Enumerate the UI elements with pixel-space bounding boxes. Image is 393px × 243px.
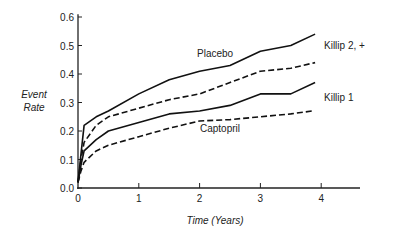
- axes: 0.00.10.20.30.40.50.601234: [60, 12, 360, 204]
- y-tick-label: 0.1: [60, 155, 74, 166]
- y-tick-label: 0.4: [60, 69, 74, 80]
- y-tick-label: 0.6: [60, 12, 74, 23]
- x-tick-label: 3: [258, 193, 264, 204]
- y-tick-label: 0.5: [60, 41, 74, 52]
- y-tick-label: 0.2: [60, 126, 74, 137]
- captopril-label: Captopril: [200, 123, 240, 134]
- series-line-1: [78, 63, 315, 183]
- x-tick-label: 1: [136, 193, 142, 204]
- killip-2-label: Killip 2, +: [324, 40, 365, 51]
- y-axis-title: Event: [21, 89, 48, 100]
- series-line-3: [78, 111, 312, 182]
- series-line-2: [78, 83, 315, 183]
- placebo-label: Placebo: [197, 48, 234, 59]
- chart: 0.00.10.20.30.40.50.601234 Event Rate Ti…: [0, 0, 393, 243]
- y-axis-title-line2: Rate: [23, 102, 45, 113]
- x-tick-label: 0: [75, 193, 81, 204]
- y-tick-label: 0.0: [60, 183, 74, 194]
- killip-1-label: Killip 1: [324, 92, 354, 103]
- x-axis-title: Time (Years): [186, 215, 243, 226]
- x-tick-label: 2: [197, 193, 203, 204]
- y-tick-label: 0.3: [60, 98, 74, 109]
- x-tick-label: 4: [318, 193, 324, 204]
